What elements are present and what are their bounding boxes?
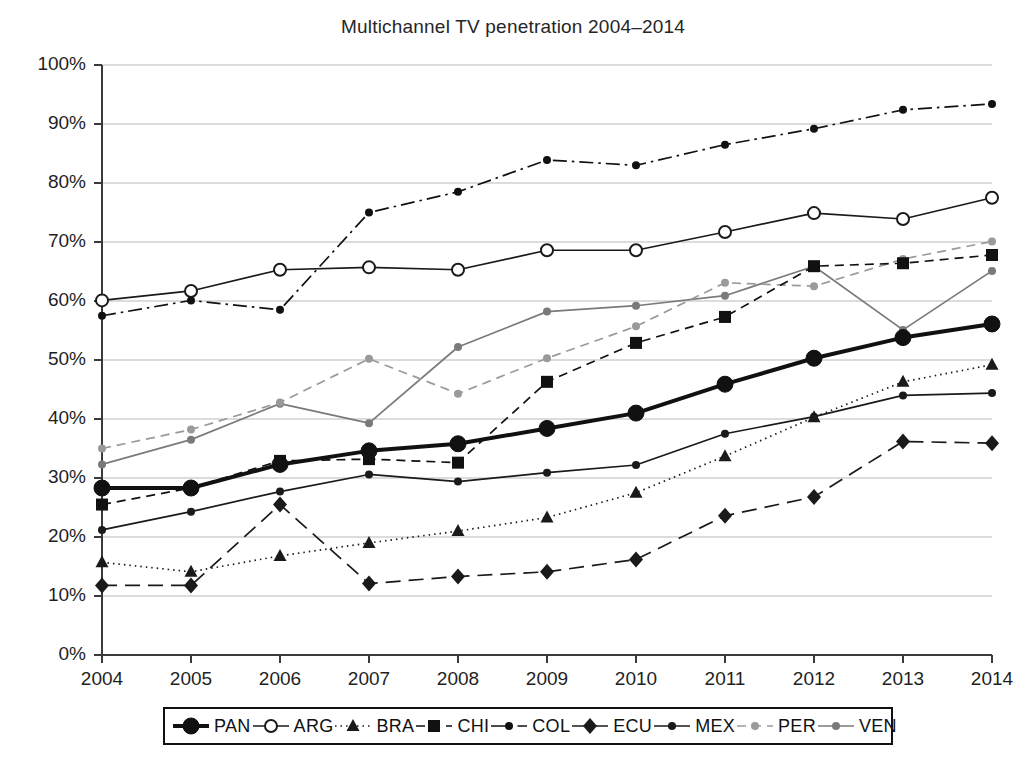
data-point-marker <box>274 264 286 276</box>
data-point-marker <box>832 722 840 730</box>
data-point-marker <box>897 257 909 269</box>
data-point-marker <box>428 720 440 732</box>
data-point-marker <box>986 249 998 261</box>
x-axis-tick-label: 2011 <box>685 668 765 690</box>
data-point-marker <box>721 430 729 438</box>
y-axis-tick-label: 100% <box>6 53 86 75</box>
data-point-marker <box>183 718 199 734</box>
legend-item-ecu[interactable]: ECU <box>570 715 652 737</box>
data-point-marker <box>628 405 644 421</box>
data-point-marker <box>183 480 199 496</box>
data-point-marker <box>632 461 640 469</box>
data-point-marker <box>541 244 553 256</box>
plot-area <box>0 0 1026 772</box>
data-point-marker <box>896 433 910 449</box>
data-point-marker <box>808 207 820 219</box>
series-bra <box>96 358 999 577</box>
data-point-marker <box>810 125 818 133</box>
legend-label: VEN <box>859 716 897 737</box>
data-point-marker <box>452 264 464 276</box>
legend-label: ARG <box>294 716 334 737</box>
legend-item-pan[interactable]: PAN <box>171 715 251 737</box>
legend-marker-per-icon <box>735 715 775 737</box>
data-point-marker <box>98 445 106 453</box>
y-axis-tick-label: 50% <box>6 348 86 370</box>
data-point-marker <box>95 577 109 593</box>
data-point-marker <box>272 456 288 472</box>
data-point-marker <box>365 419 373 427</box>
data-point-marker <box>718 508 732 524</box>
chart-legend: PANARGBRACHICOLECUMEXPERVEN <box>163 707 893 745</box>
data-point-marker <box>807 489 821 505</box>
data-point-marker <box>185 285 197 297</box>
x-axis-tick-label: 2007 <box>329 668 409 690</box>
x-axis-tick-label: 2008 <box>418 668 498 690</box>
data-point-marker <box>273 497 287 513</box>
data-point-marker <box>583 718 597 734</box>
data-point-marker <box>184 577 198 593</box>
legend-item-ven[interactable]: VEN <box>816 715 897 737</box>
legend-label: COL <box>532 716 570 737</box>
y-axis-tick-label: 60% <box>6 289 86 311</box>
data-point-marker <box>721 292 729 300</box>
data-point-marker <box>454 343 462 351</box>
data-point-marker <box>274 549 287 561</box>
data-point-marker <box>988 237 996 245</box>
data-point-marker <box>986 192 998 204</box>
data-point-marker <box>98 312 106 320</box>
data-point-marker <box>265 720 277 732</box>
x-axis-tick-label: 2004 <box>62 668 142 690</box>
data-point-marker <box>988 100 996 108</box>
chart-container: Multichannel TV penetration 2004–2014 0%… <box>0 0 1026 772</box>
series-line-per <box>102 241 992 448</box>
data-point-marker <box>276 306 284 314</box>
data-point-marker <box>719 449 732 461</box>
data-point-marker <box>988 267 996 275</box>
data-point-marker <box>899 391 907 399</box>
legend-item-col[interactable]: COL <box>489 715 570 737</box>
data-point-marker <box>505 722 513 730</box>
data-point-marker <box>632 322 640 330</box>
legend-marker-bra-icon <box>333 715 373 737</box>
data-point-marker <box>98 460 106 468</box>
y-axis-tick-label: 0% <box>6 643 86 665</box>
data-point-marker <box>540 564 554 580</box>
data-point-marker <box>984 316 1000 332</box>
legend-item-bra[interactable]: BRA <box>333 715 414 737</box>
series-arg <box>96 192 998 307</box>
legend-marker-pan-icon <box>171 715 211 737</box>
data-point-marker <box>543 354 551 362</box>
data-point-marker <box>897 375 910 387</box>
data-point-marker <box>541 376 553 388</box>
data-point-marker <box>630 486 643 498</box>
legend-item-per[interactable]: PER <box>735 715 816 737</box>
legend-marker-mex-icon <box>652 715 692 737</box>
data-point-marker <box>454 188 462 196</box>
data-point-marker <box>632 302 640 310</box>
data-point-marker <box>808 260 820 272</box>
legend-marker-ecu-icon <box>570 715 610 737</box>
series-col <box>98 100 996 320</box>
data-point-marker <box>719 226 731 238</box>
data-point-marker <box>365 209 373 217</box>
data-point-marker <box>452 457 464 469</box>
data-point-marker <box>630 244 642 256</box>
y-axis-tick-label: 80% <box>6 171 86 193</box>
data-point-marker <box>363 261 375 273</box>
data-point-marker <box>721 141 729 149</box>
legend-marker-ven-icon <box>816 715 856 737</box>
data-point-marker <box>365 470 373 478</box>
data-point-marker <box>806 350 822 366</box>
x-axis-tick-label: 2005 <box>151 668 231 690</box>
data-point-marker <box>450 436 466 452</box>
data-point-marker <box>668 722 676 730</box>
data-point-marker <box>751 722 759 730</box>
x-axis-tick-label: 2009 <box>507 668 587 690</box>
legend-item-mex[interactable]: MEX <box>652 715 735 737</box>
y-axis-tick-label: 90% <box>6 112 86 134</box>
data-point-marker <box>543 156 551 164</box>
legend-item-chi[interactable]: CHI <box>414 715 489 737</box>
legend-label: PER <box>778 716 816 737</box>
legend-item-arg[interactable]: ARG <box>251 715 334 737</box>
data-point-marker <box>985 435 999 451</box>
